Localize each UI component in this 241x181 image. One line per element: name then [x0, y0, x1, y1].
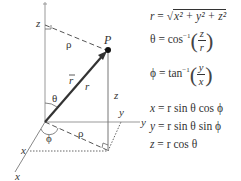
point-p-label: P	[103, 33, 112, 47]
y-axis-label: y	[140, 116, 146, 128]
equation-z: z = r cos θ	[150, 138, 197, 150]
x-tick-label: x	[20, 144, 26, 156]
phi-label: ϕ	[46, 132, 52, 144]
equation-x: x = r sin θ cos ϕ	[150, 102, 223, 114]
left-paren-icon: (	[191, 30, 198, 52]
magnitude-r-label: r	[85, 80, 90, 92]
equation-theta: θ = cos−1(zr)	[150, 28, 213, 53]
eq-r-radicand: x² + y² + z²	[173, 9, 226, 22]
eq-phi-eq: = tan	[156, 67, 182, 79]
eq-x-eq: =	[155, 102, 167, 114]
eq-z-eq: =	[154, 138, 166, 150]
vector-r-label: r	[69, 74, 74, 86]
z-height-label: z	[113, 89, 119, 101]
rho-bottom-dashed	[45, 122, 107, 150]
right-paren-icon: )	[205, 64, 212, 86]
eq-theta-num: z	[200, 28, 204, 39]
eq-phi-den: x	[199, 76, 204, 87]
eq-y-rhs: r sin θ sin ϕ	[167, 120, 221, 132]
right-paren-icon: )	[206, 30, 213, 52]
equation-r: r = √x² + y² + z²	[150, 10, 226, 22]
eq-theta-fraction: zr	[198, 28, 206, 53]
eq-r-eq: =	[154, 10, 166, 22]
eq-phi-fraction: yx	[197, 62, 205, 87]
spherical-coordinates-diagram: z ρ P r r θ z y y ρ ϕ x x	[0, 0, 150, 181]
right-angle-marker-bottom	[102, 143, 108, 148]
equation-phi: ϕ = tan−1(yx)	[150, 62, 212, 87]
x-axis	[15, 122, 45, 172]
eq-theta-eq: = cos	[156, 33, 184, 45]
y-tick-label: y	[118, 106, 124, 118]
rho-bottom-label: ρ	[78, 127, 84, 139]
z-tick-label: z	[35, 17, 41, 29]
rho-top-dashed	[45, 25, 106, 50]
eq-phi-sup: −1	[182, 66, 189, 74]
eq-theta-sup: −1	[183, 32, 190, 40]
y-projection-dotted	[108, 122, 121, 151]
eq-x-rhs: r sin θ cos ϕ	[167, 102, 223, 114]
left-paren-icon: (	[190, 64, 197, 86]
eq-theta-den: r	[200, 42, 204, 53]
r-vector	[45, 54, 104, 122]
eq-z-rhs: r cos θ	[167, 138, 197, 150]
equation-y: y = r sin θ sin ϕ	[150, 120, 221, 132]
theta-label: θ	[52, 92, 57, 104]
x-axis-label: x	[14, 170, 20, 181]
point-p	[105, 47, 111, 53]
eq-phi-num: y	[199, 62, 204, 73]
eq-y-eq: =	[155, 120, 167, 132]
rho-top-label: ρ	[66, 38, 72, 50]
